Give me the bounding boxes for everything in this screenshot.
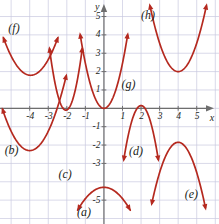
y-axis-label: y	[95, 2, 99, 12]
curve-label-f: (f)	[8, 22, 19, 34]
curve-label-e: (e)	[185, 188, 198, 200]
y-tick-label: 4	[96, 30, 101, 40]
y-tick-label: -5	[93, 196, 101, 206]
x-axis-label: x	[210, 113, 214, 123]
x-tick-label: -2	[63, 112, 71, 122]
parabola-figure: -4-3-2-11234554321-1-2-3-5xy(a)(b)(c)(d)…	[0, 0, 219, 224]
curve-label-b: (b)	[5, 144, 19, 156]
x-tick-label: 1	[121, 112, 126, 122]
x-tick-label: 2	[139, 112, 144, 122]
curve-label-g: (g)	[122, 78, 136, 90]
curve-label-a: (a)	[77, 206, 91, 218]
x-tick-label: -1	[82, 112, 90, 122]
y-tick-label: -1	[93, 122, 101, 132]
y-tick-label: 3	[96, 49, 101, 59]
y-tick-label: 5	[96, 12, 101, 22]
x-tick-label: -3	[45, 112, 53, 122]
y-tick-label: 2	[96, 67, 101, 77]
y-tick-label: 1	[96, 85, 101, 95]
curve-label-h: (h)	[141, 9, 155, 21]
y-tick-label: -2	[93, 141, 101, 151]
x-tick-label: 4	[176, 112, 181, 122]
curve-label-c: (c)	[58, 168, 71, 180]
x-tick-label: 5	[195, 112, 200, 122]
x-tick-label: -4	[26, 112, 34, 122]
curve-label-d: (d)	[129, 145, 143, 157]
y-tick-label: -3	[93, 159, 101, 169]
x-tick-label: 3	[158, 112, 163, 122]
